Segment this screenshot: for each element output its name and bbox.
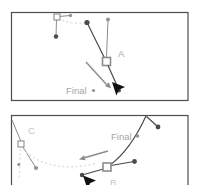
anchor-point-icon xyxy=(18,141,24,147)
panel-bottom: C Final B xyxy=(12,116,189,186)
direction-handle-line xyxy=(56,20,57,36)
anchor-dot-icon xyxy=(84,20,89,25)
anchor-label-a: A xyxy=(118,48,125,59)
figure-canvas: A Final C Final xyxy=(0,0,200,185)
anchor-label-b: B xyxy=(110,177,116,185)
handle-dot-icon xyxy=(69,14,72,17)
path-editing-illustration: A Final C Final xyxy=(0,0,200,185)
handle-dot-icon xyxy=(17,163,20,166)
handle-dot-icon xyxy=(132,159,137,164)
selected-anchor-point-icon xyxy=(103,58,111,66)
panel-top-frame xyxy=(12,13,189,101)
handle-dot-icon xyxy=(54,34,58,38)
panel-top: A Final xyxy=(12,13,189,101)
handle-dot-icon xyxy=(106,18,110,22)
final-label: Final xyxy=(111,131,132,142)
handle-dot-icon xyxy=(156,125,161,130)
anchor-point-icon xyxy=(54,14,60,20)
final-dot-icon xyxy=(136,134,139,137)
selected-anchor-point-icon xyxy=(103,163,111,171)
final-label: Final xyxy=(66,85,87,96)
anchor-dot-icon xyxy=(34,166,38,170)
anchor-label-c: C xyxy=(28,125,35,136)
final-dot-icon xyxy=(92,89,95,92)
panel-bottom-frame xyxy=(12,116,189,186)
